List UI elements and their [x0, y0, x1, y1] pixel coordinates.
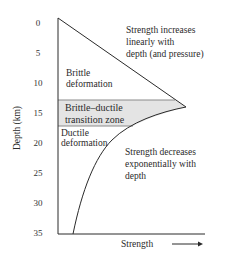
right-arrow-icon — [172, 242, 203, 247]
x-axis-label: Strength — [121, 239, 153, 249]
y-tick: 10 — [34, 78, 44, 88]
transition-label-line1: Brittle–ductile — [65, 102, 123, 113]
annotation-upper-line3: depth (and pressure) — [126, 49, 204, 60]
brittle-ductile-strength-diagram: 0 5 10 15 20 25 30 35 Depth (km) Brittle… — [0, 0, 225, 261]
ductile-label-line2: deformation — [61, 138, 108, 148]
y-tick: 25 — [34, 168, 44, 178]
ductile-label-line1: Ductile — [61, 128, 89, 138]
y-tick: 30 — [34, 198, 44, 208]
y-axis-label: Depth (km) — [12, 106, 23, 150]
y-axis-ticks: 0 5 10 15 20 25 30 35 — [34, 18, 44, 238]
transition-label-line2: transition zone — [65, 114, 125, 125]
brittle-label-line2: deformation — [66, 79, 113, 89]
annotation-upper-line1: Strength increases — [126, 25, 196, 35]
y-tick: 35 — [34, 228, 44, 238]
y-tick: 15 — [34, 108, 44, 118]
annotation-lower-line3: depth — [125, 171, 146, 181]
annotation-upper-line2: linearly with — [126, 37, 175, 47]
annotation-lower-line1: Strength decreases — [125, 147, 196, 157]
y-tick: 20 — [34, 138, 44, 148]
annotation-lower-line2: exponentially with — [125, 159, 196, 169]
brittle-label-line1: Brittle — [66, 68, 90, 78]
y-tick: 5 — [36, 48, 41, 58]
y-tick: 0 — [36, 18, 41, 28]
